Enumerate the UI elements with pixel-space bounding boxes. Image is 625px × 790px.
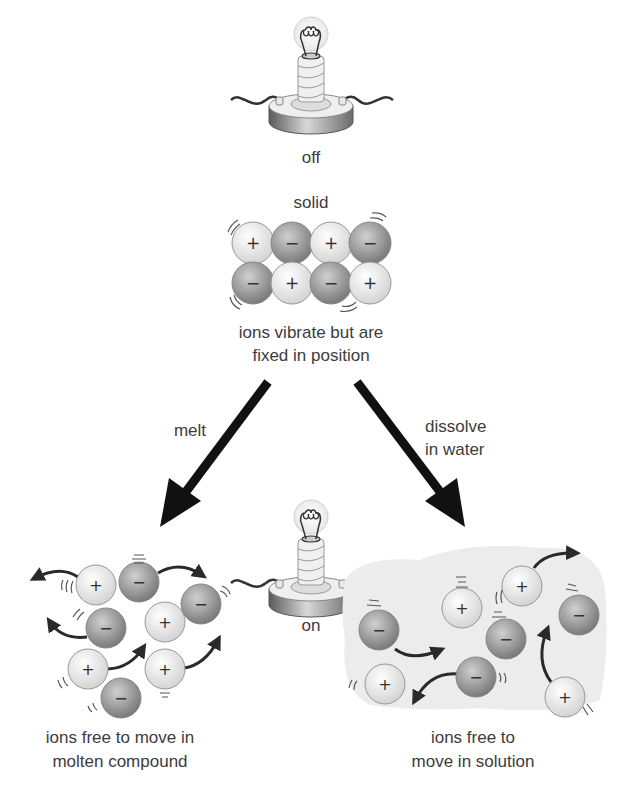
- positive-ion: +: [545, 677, 585, 717]
- negative-ion: −: [101, 678, 141, 718]
- negative-ion: −: [349, 222, 391, 264]
- svg-text:−: −: [372, 621, 385, 640]
- negative-ion: −: [181, 584, 221, 624]
- svg-text:+: +: [363, 273, 377, 293]
- svg-text:−: −: [572, 606, 585, 625]
- solution-caption-line2: move in solution: [398, 751, 548, 773]
- negative-ion: −: [486, 619, 526, 659]
- positive-ion: +: [68, 649, 108, 689]
- solution-caption-line1: ions free to: [398, 727, 548, 749]
- solid-caption-line1: ions vibrate but are: [211, 322, 411, 344]
- negative-ion: −: [271, 222, 313, 264]
- molten-caption-line1: ions free to move in: [20, 727, 220, 749]
- positive-ion: +: [349, 262, 391, 304]
- svg-text:+: +: [455, 599, 468, 618]
- melt-label: melt: [165, 420, 215, 442]
- positive-ion: +: [442, 588, 482, 628]
- svg-text:+: +: [558, 688, 571, 707]
- solid-lattice: + − + − − + − +: [228, 213, 391, 312]
- negative-ion: −: [310, 262, 352, 304]
- positive-ion: +: [145, 649, 185, 689]
- solid-caption-line2: fixed in position: [211, 345, 411, 367]
- svg-text:−: −: [285, 233, 299, 253]
- bulb-off-icon: [231, 17, 393, 134]
- svg-text:+: +: [378, 675, 391, 694]
- dissolve-label-line2: in water: [425, 439, 505, 461]
- negative-ion: −: [559, 595, 599, 635]
- positive-ion: +: [310, 222, 352, 264]
- svg-text:+: +: [515, 577, 528, 596]
- water-solution: + + − − − + − +: [343, 546, 607, 717]
- svg-text:−: −: [363, 233, 377, 253]
- negative-ion: −: [119, 562, 159, 602]
- bulb-off-label: off: [291, 147, 331, 169]
- svg-text:+: +: [285, 273, 299, 293]
- positive-ion: +: [232, 222, 274, 264]
- svg-text:+: +: [158, 660, 171, 679]
- positive-ion: +: [502, 566, 542, 606]
- positive-ion: +: [145, 602, 185, 642]
- svg-text:+: +: [158, 613, 171, 632]
- positive-ion: +: [76, 565, 116, 605]
- bulb-on-label: on: [291, 615, 331, 637]
- svg-text:+: +: [81, 660, 94, 679]
- svg-text:+: +: [246, 233, 260, 253]
- svg-text:−: −: [114, 689, 127, 708]
- negative-ion: −: [456, 657, 496, 697]
- svg-text:−: −: [246, 273, 260, 293]
- solid-heading: solid: [271, 192, 351, 214]
- svg-text:+: +: [89, 576, 102, 595]
- svg-text:−: −: [132, 573, 145, 592]
- svg-text:−: −: [194, 595, 207, 614]
- positive-ion: +: [365, 664, 405, 704]
- svg-text:−: −: [324, 273, 338, 293]
- negative-ion: −: [86, 608, 126, 648]
- positive-ion: +: [271, 262, 313, 304]
- molten-ions: + − − − + + + −: [35, 555, 230, 718]
- molten-caption-line2: molten compound: [20, 751, 220, 773]
- diagram-canvas: + − + − − + − + + −: [0, 0, 625, 790]
- negative-ion: −: [232, 262, 274, 304]
- melt-arrow-icon: [160, 382, 268, 527]
- svg-text:+: +: [324, 233, 338, 253]
- dissolve-label-line1: dissolve: [425, 416, 505, 438]
- svg-text:−: −: [99, 619, 112, 638]
- negative-ion: −: [359, 610, 399, 650]
- svg-text:−: −: [469, 668, 482, 687]
- svg-text:−: −: [499, 630, 512, 649]
